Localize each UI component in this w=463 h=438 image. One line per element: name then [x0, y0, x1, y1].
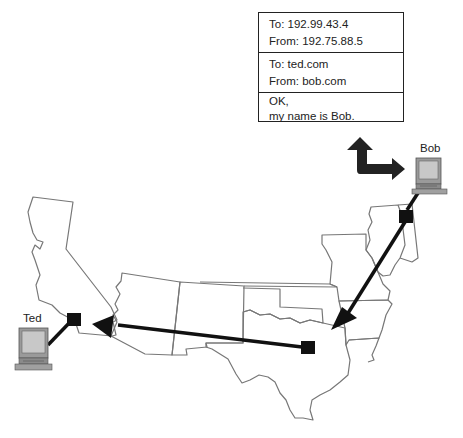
- state-louisiana: [349, 338, 379, 362]
- router-texas: [301, 341, 315, 354]
- router-bob: [399, 210, 413, 223]
- ip-header-section: To: 192.99.43.4 From: 192.75.88.5: [259, 13, 403, 53]
- ted-computer-icon: [15, 328, 52, 370]
- bob-label: Bob: [420, 142, 440, 154]
- ip-to-address: To: 192.99.43.4: [269, 16, 403, 33]
- state-missouri: [322, 234, 390, 301]
- state-texas: [206, 310, 350, 420]
- us-map: [28, 197, 418, 420]
- route-texas-to-california: [118, 325, 302, 347]
- packet-to-bob-arrow: [347, 137, 405, 180]
- packet-diagram: To: 192.99.43.4 From: 192.75.88.5 To: te…: [258, 12, 404, 122]
- app-to-domain: To: ted.com: [269, 56, 403, 73]
- router-ted: [67, 313, 81, 326]
- state-new-mexico: [172, 282, 244, 355]
- ip-from-address: From: 192.75.88.5: [269, 33, 403, 50]
- bob-computer-icon: [412, 158, 447, 194]
- app-header-section: To: ted.com From: bob.com: [259, 53, 403, 93]
- arrowhead-southwest: [331, 307, 357, 330]
- payload-line-2: my name is Bob.: [269, 109, 403, 124]
- route-router-to-texas: [345, 222, 405, 318]
- state-oklahoma: [243, 288, 323, 323]
- state-arizona: [111, 273, 180, 355]
- app-from-domain: From: bob.com: [269, 73, 403, 90]
- payload-section: OK, my name is Bob.: [259, 93, 403, 121]
- payload-line-1: OK,: [269, 94, 403, 109]
- ted-label: Ted: [23, 312, 42, 324]
